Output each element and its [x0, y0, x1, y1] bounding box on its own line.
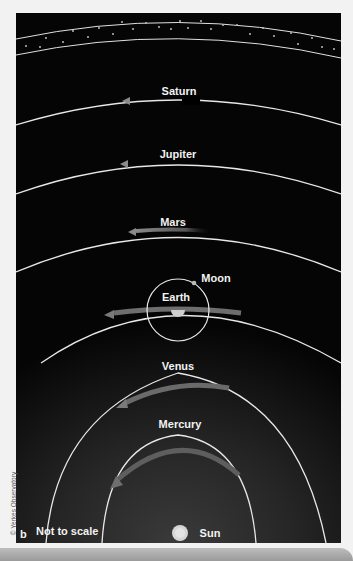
- image-credit: © Yerkes Observatory: [10, 464, 17, 544]
- venus-motion-arrow: [125, 385, 229, 403]
- saturn-orbit: [16, 100, 341, 125]
- label-earth: Earth: [162, 291, 190, 303]
- label-mercury: Mercury: [159, 418, 202, 430]
- solar-system-diagram: Saturn Jupiter Mars Earth Moon Venus Mer…: [16, 13, 341, 543]
- label-mars: Mars: [160, 216, 186, 228]
- earth-orbit: [41, 316, 341, 364]
- label-jupiter: Jupiter: [160, 148, 197, 160]
- mercury-motion-arrow: [116, 450, 239, 481]
- venus-orbit: [46, 373, 326, 543]
- not-to-scale-note: Not to scale: [36, 525, 98, 537]
- bottom-bar: [0, 548, 353, 561]
- label-venus: Venus: [162, 360, 194, 372]
- label-moon: Moon: [201, 272, 230, 284]
- label-sun: Sun: [200, 527, 221, 539]
- star-band: [16, 20, 341, 58]
- mars-orbit: [16, 238, 341, 273]
- jupiter-orbit: [16, 165, 341, 194]
- panel-letter: b: [20, 528, 27, 540]
- mars-motion-arrow: [136, 230, 208, 232]
- moon-dot: [192, 281, 197, 286]
- label-saturn: Saturn: [162, 85, 197, 97]
